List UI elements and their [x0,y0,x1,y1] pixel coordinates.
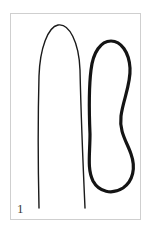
panel-number: 1 [17,202,24,215]
curve-drawing-canvas [11,14,142,221]
figure-panel: 1 [0,0,151,232]
closed-loop-curve [89,41,133,192]
panel-frame: 1 [10,13,141,220]
hairpin-curve [38,25,85,208]
